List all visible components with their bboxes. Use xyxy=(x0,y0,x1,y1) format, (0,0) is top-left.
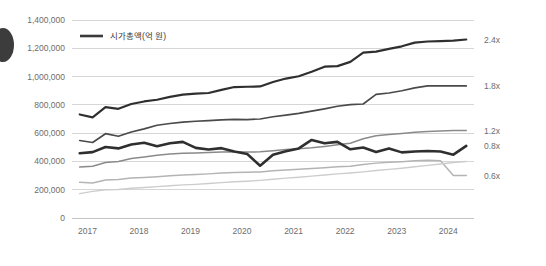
series-end-label: 2.4x xyxy=(484,35,501,45)
x-axis-tick-label: 2017 xyxy=(78,226,97,236)
x-axis-tick-label: 2020 xyxy=(233,226,252,236)
y-axis-tick-label: 200,000 xyxy=(34,185,65,195)
y-axis-tick-label: 800,000 xyxy=(34,100,65,110)
series-end-label: 0.6x xyxy=(484,171,501,181)
x-axis-tick-label: 2018 xyxy=(130,226,149,236)
y-axis-tick-labels: 0200,000400,000600,000800,0001,000,0001,… xyxy=(27,15,65,223)
x-axis-tick-label: 2022 xyxy=(336,226,355,236)
data-series-line xyxy=(80,86,467,143)
y-axis-tick-label: 600,000 xyxy=(34,128,65,138)
x-axis-tick-label: 2024 xyxy=(439,226,458,236)
y-axis-tick-label: 1,000,000 xyxy=(27,72,65,82)
y-axis-tick-label: 400,000 xyxy=(34,156,65,166)
y-axis-tick-label: 0 xyxy=(60,213,65,223)
y-axis-tick-label: 1,200,000 xyxy=(27,43,65,53)
x-axis-tick-labels: 20172018201920202021202220232024 xyxy=(78,226,458,236)
data-series-group xyxy=(80,40,467,194)
data-series-line xyxy=(80,40,467,118)
series-end-labels: 2.4x1.8x1.2x0.8x0.6x xyxy=(484,35,501,181)
x-axis-tick-label: 2019 xyxy=(181,226,200,236)
series-end-label: 0.8x xyxy=(484,141,501,151)
series-end-label: 1.8x xyxy=(484,81,501,91)
chart-container: 0200,000400,000600,000800,0001,000,0001,… xyxy=(0,0,546,266)
x-axis-tick-label: 2021 xyxy=(284,226,303,236)
x-axis-tick-label: 2023 xyxy=(387,226,406,236)
legend-label: 시가총액(억 원) xyxy=(110,31,166,41)
y-axis-tick-label: 1,400,000 xyxy=(27,15,65,25)
legend-group: 시가총액(억 원) xyxy=(80,31,166,41)
line-chart-svg: 0200,000400,000600,000800,0001,000,0001,… xyxy=(0,0,546,266)
series-end-label: 1.2x xyxy=(484,126,501,136)
